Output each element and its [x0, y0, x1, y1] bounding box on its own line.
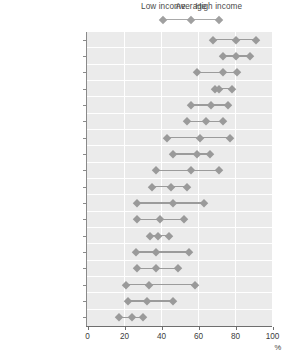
legend-label-high-income: High income [196, 2, 243, 11]
x-tick-label: 20 [120, 332, 129, 341]
x-tick-label: 60 [194, 332, 203, 341]
row-separator [87, 64, 272, 65]
range-connector [136, 251, 190, 252]
dot-plot-chart: Low incomeAverageHigh income DenmarkNeth… [0, 0, 285, 363]
x-tick [125, 327, 126, 330]
legend-marker-low-income [159, 15, 168, 24]
row-separator [87, 178, 272, 179]
row-separator [87, 113, 272, 114]
row-separator [87, 243, 272, 244]
x-tick-label: 0 [85, 332, 90, 341]
legend-marker-high-income [214, 15, 223, 24]
x-tick [273, 327, 274, 330]
range-connector [173, 153, 210, 154]
x-tick-label: 100 [266, 332, 280, 341]
row-separator [87, 292, 272, 293]
legend-marker-average [187, 15, 196, 24]
row-separator [87, 309, 272, 310]
row-separator [87, 162, 272, 163]
x-tick [199, 327, 200, 330]
row-separator [87, 276, 272, 277]
category-axis-labels: DenmarkNetherlandsSwitzerlandSwedenAustr… [0, 0, 82, 363]
x-axis-title: % [275, 343, 282, 352]
row-separator [87, 145, 272, 146]
row-separator [87, 194, 272, 195]
range-connector [197, 72, 238, 73]
gridline [161, 32, 162, 326]
x-axis-line [86, 326, 272, 327]
gridline [198, 32, 199, 326]
row-separator [87, 211, 272, 212]
x-tick-label: 40 [157, 332, 166, 341]
x-tick-label: 80 [231, 332, 240, 341]
row-separator [87, 80, 272, 81]
plot-area [86, 32, 272, 326]
row-separator [87, 96, 272, 97]
x-tick [162, 327, 163, 330]
x-tick [88, 327, 89, 330]
row-separator [87, 47, 272, 48]
range-connector [126, 284, 194, 285]
row-separator [87, 129, 272, 130]
row-separator [87, 227, 272, 228]
gridline [272, 32, 273, 326]
row-separator [87, 260, 272, 261]
x-tick [236, 327, 237, 330]
